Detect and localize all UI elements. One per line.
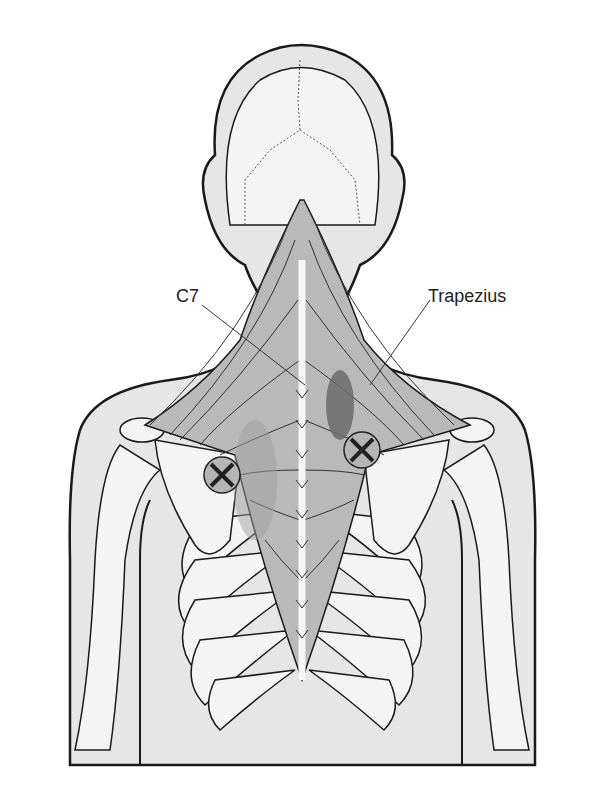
trigger-point-left-icon <box>204 457 240 493</box>
trigger-point-right-icon <box>344 432 380 468</box>
trapezius-label: Trapezius <box>428 286 506 307</box>
referral-zone-dark <box>326 370 354 440</box>
c7-label: C7 <box>176 286 199 307</box>
trapezius-diagram: C7 Trapezius <box>0 0 604 785</box>
anatomy-illustration <box>0 0 604 785</box>
